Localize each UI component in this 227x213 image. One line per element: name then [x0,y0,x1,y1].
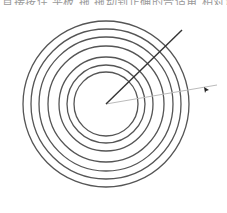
mouse-cursor-icon [204,87,209,93]
concentric-rings-diagram[interactable] [0,0,227,213]
